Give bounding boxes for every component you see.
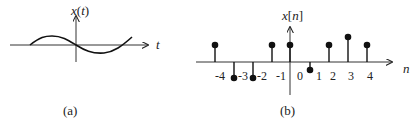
svg-text:-3: -3 (238, 69, 248, 83)
xn-label: x[n] (281, 8, 303, 23)
svg-text:0: 0 (297, 69, 303, 83)
svg-text:-4: -4 (215, 69, 225, 83)
svg-text:-1: -1 (276, 69, 286, 83)
svg-text:4: 4 (367, 69, 373, 83)
caption-a: (a) (63, 103, 77, 118)
n-label: n (403, 61, 410, 76)
figure: x(t) t (a) x[n] n -4 -3 -2 -1 0 1 (0, 0, 416, 131)
panel-a: x(t) t (a) (10, 3, 160, 118)
panel-b: x[n] n -4 -3 -2 -1 0 1 2 3 4 (b) (196, 8, 410, 118)
svg-text:-2: -2 (257, 69, 267, 83)
svg-text:1: 1 (316, 69, 322, 83)
svg-text:3: 3 (348, 69, 354, 83)
caption-b: (b) (280, 103, 295, 118)
tick-labels: -4 -3 -2 -1 0 1 2 3 4 (215, 69, 373, 83)
xt-label: x(t) (70, 3, 89, 18)
stems (212, 34, 369, 80)
svg-text:2: 2 (330, 69, 336, 83)
t-label: t (156, 37, 160, 52)
